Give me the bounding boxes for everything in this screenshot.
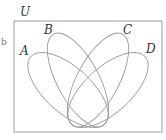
set-c-label: C	[123, 24, 132, 36]
set-d-label: D	[146, 43, 156, 55]
venn-diagram	[0, 0, 166, 140]
universe-rectangle	[14, 21, 162, 132]
universe-label: U	[20, 6, 30, 18]
set-b-label: B	[44, 24, 53, 36]
side-mark: b	[1, 38, 7, 47]
set-a-label: A	[20, 45, 29, 57]
